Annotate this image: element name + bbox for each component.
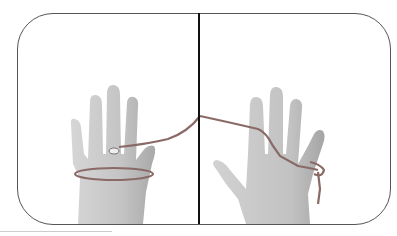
right-hand <box>213 87 325 224</box>
hands-illustration <box>18 14 390 224</box>
left-hand <box>71 85 155 224</box>
bottom-rule <box>0 231 112 232</box>
image-frame <box>17 13 391 225</box>
panel-divider <box>198 13 200 224</box>
